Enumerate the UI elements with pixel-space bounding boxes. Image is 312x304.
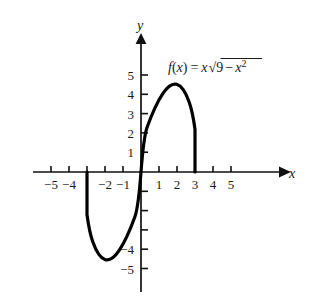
x-label--4: −4 xyxy=(62,177,76,192)
x-label-1: 1 xyxy=(156,177,163,192)
y-label-4: 4 xyxy=(128,87,135,102)
formula-expression: f(x)=x√9−x2 xyxy=(168,58,246,76)
y-label-3: 3 xyxy=(128,107,135,122)
x-label--2: −2 xyxy=(98,177,112,192)
function-graph-figure: −5 −4 −2 −1 1 2 3 4 5 5 4 3 2 1 −4 −5 x … xyxy=(0,0,312,304)
y-label-1: 1 xyxy=(128,145,135,160)
x-label-3: 3 xyxy=(192,177,199,192)
figure-background xyxy=(0,0,312,304)
y-axis-label: y xyxy=(135,18,144,33)
formula-x-factor: x xyxy=(200,60,208,75)
y-label-2: 2 xyxy=(128,126,135,141)
x-label-5: 5 xyxy=(228,177,235,192)
x-label--5: −5 xyxy=(44,177,58,192)
x-label-4: 4 xyxy=(210,177,217,192)
y-label-5: 5 xyxy=(128,68,135,83)
formula-exponent: 2 xyxy=(241,58,246,69)
formula-equals: = xyxy=(190,60,198,75)
x-axis-label: x xyxy=(288,166,296,181)
formula-paren-close: ) xyxy=(183,60,188,76)
y-label--5: −5 xyxy=(120,262,134,277)
formula-minus: − xyxy=(225,60,233,75)
formula-nine: 9 xyxy=(216,60,223,75)
x-label-2: 2 xyxy=(174,177,181,192)
x-label--1: −1 xyxy=(116,177,130,192)
